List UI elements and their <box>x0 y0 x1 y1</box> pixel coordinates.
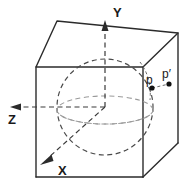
x-axis-label: X <box>58 163 67 178</box>
z-axis-arrowhead <box>10 104 21 111</box>
coordinate-axes: Y Z X <box>8 5 122 178</box>
p-to-pprime-connector <box>152 84 169 88</box>
y-axis-label: Y <box>113 5 122 20</box>
cube-edge-bottom-right-receding <box>143 143 178 177</box>
sphere-equator-lower-arc <box>57 110 153 124</box>
figure-container: Y Z X p p′ <box>0 0 194 189</box>
point-p-prime-dot <box>166 81 171 86</box>
cube-wireframe <box>36 21 178 177</box>
x-axis-arrowhead <box>40 155 54 166</box>
point-p-prime-label: p′ <box>162 67 172 81</box>
z-axis-label: Z <box>8 112 16 127</box>
x-axis-line <box>48 107 105 158</box>
cube-sphere-axes-diagram: Y Z X p p′ <box>0 0 194 189</box>
point-p-label: p <box>146 73 153 87</box>
